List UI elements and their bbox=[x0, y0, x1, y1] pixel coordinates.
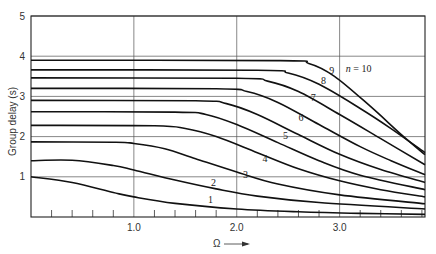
group-delay-chart: 123451.02.03.0123456789n = 10Group delay… bbox=[0, 0, 436, 254]
curve-label-n-4: 4 bbox=[262, 153, 267, 164]
curve-label-n-10: n = 10 bbox=[346, 63, 372, 74]
x-tick-label: 2.0 bbox=[230, 222, 244, 233]
curve-n-1 bbox=[31, 177, 425, 215]
curve-n-2 bbox=[31, 160, 425, 209]
x-tick-label: 3.0 bbox=[333, 222, 347, 233]
curve-n-5 bbox=[31, 112, 425, 190]
y-axis-label: Group delay (s) bbox=[7, 87, 18, 156]
y-tick-label: 3 bbox=[19, 91, 25, 102]
curve-label-n-1: 1 bbox=[208, 194, 213, 205]
x-axis-label: Ω bbox=[213, 238, 221, 249]
y-tick-label: 5 bbox=[19, 11, 25, 22]
y-tick-label: 4 bbox=[19, 51, 25, 62]
y-tick-label: 2 bbox=[19, 131, 25, 142]
curve-label-n-2: 2 bbox=[211, 177, 216, 188]
curve-label-n-5: 5 bbox=[283, 130, 288, 141]
arrowhead-icon bbox=[242, 242, 250, 247]
curve-label-n-3: 3 bbox=[243, 169, 248, 180]
curve-n-3 bbox=[31, 142, 425, 204]
y-tick-label: 1 bbox=[19, 171, 25, 182]
x-tick-label: 1.0 bbox=[127, 222, 141, 233]
curve-label-n-8: 8 bbox=[321, 75, 326, 86]
